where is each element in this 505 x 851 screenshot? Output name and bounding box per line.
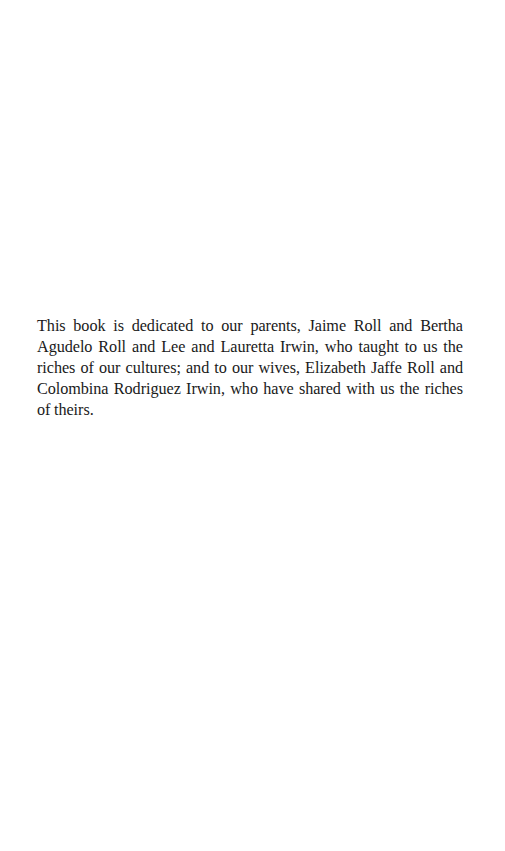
- dedication-paragraph: This book is dedicated to our parents, J…: [37, 316, 463, 421]
- book-page: This book is dedicated to our parents, J…: [0, 0, 505, 851]
